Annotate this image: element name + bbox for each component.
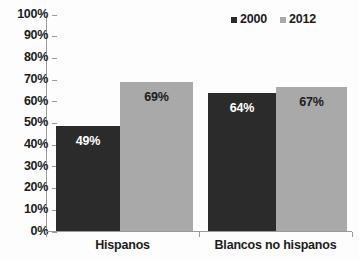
legend-swatch-icon bbox=[280, 17, 286, 23]
y-tick-mark bbox=[52, 36, 57, 37]
y-tick-label: 60% bbox=[24, 95, 52, 108]
legend-item-2000[interactable]: 2000 bbox=[231, 13, 267, 26]
y-tick-mark bbox=[52, 123, 57, 124]
x-tick-start bbox=[46, 232, 47, 237]
x-tick-end bbox=[352, 232, 353, 237]
bar-value-label: 64% bbox=[208, 102, 276, 115]
y-tick-mark bbox=[52, 101, 57, 102]
y-tick-mark bbox=[52, 15, 57, 16]
bar-hispanos-2012[interactable]: 69% bbox=[120, 82, 193, 232]
y-tick-mark bbox=[52, 80, 57, 81]
y-tick-label: 30% bbox=[24, 160, 52, 173]
bar-hispanos-2000[interactable]: 49% bbox=[56, 126, 120, 232]
y-tick-label: 20% bbox=[24, 181, 52, 194]
legend-swatch-icon bbox=[231, 17, 237, 23]
x-tick-middle bbox=[199, 232, 200, 237]
x-category-label-hispanos: Hispanos bbox=[46, 238, 199, 252]
y-tick-label: 50% bbox=[24, 116, 52, 129]
y-tick-mark bbox=[52, 58, 57, 59]
y-tick-label: 40% bbox=[24, 138, 52, 151]
legend-item-2012[interactable]: 2012 bbox=[280, 13, 316, 26]
legend-label: 2000 bbox=[240, 13, 267, 26]
bar-blancos-2012[interactable]: 67% bbox=[276, 87, 347, 232]
bar-value-label: 67% bbox=[276, 96, 347, 109]
y-tick-label: 10% bbox=[24, 203, 52, 216]
bar-chart: 100% 90% 80% 70% 60% 50% 40% 30% 20% 10%… bbox=[0, 0, 359, 259]
y-tick-label: 100% bbox=[17, 8, 52, 21]
bar-value-label: 69% bbox=[120, 91, 193, 104]
bar-value-label: 49% bbox=[56, 135, 120, 148]
y-tick-label: 80% bbox=[24, 51, 52, 64]
y-tick-label: 70% bbox=[24, 73, 52, 86]
legend-label: 2012 bbox=[289, 13, 316, 26]
y-tick-label: 90% bbox=[24, 29, 52, 42]
x-category-label-blancos: Blancos no hispanos bbox=[199, 238, 352, 252]
bar-blancos-2000[interactable]: 64% bbox=[208, 93, 276, 232]
legend: 2000 2012 bbox=[231, 13, 316, 26]
